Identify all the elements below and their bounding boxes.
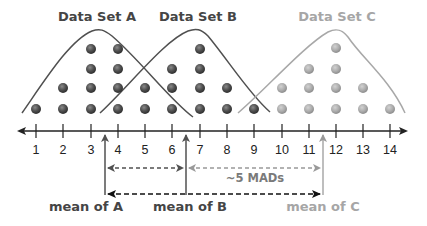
title-data-set-c: Data Set C — [298, 9, 376, 24]
tick-label: 5 — [142, 143, 149, 157]
tick-label: 10 — [275, 143, 289, 157]
mads-label: ~5 MADs — [226, 171, 285, 185]
curve-data-set-a — [22, 30, 193, 117]
tick-label: 6 — [169, 143, 176, 157]
number-line: 1 2 3 4 5 6 7 8 9 10 11 12 13 14 — [17, 124, 408, 157]
mean-a-label: mean of A — [49, 199, 123, 214]
tick-label: 14 — [383, 143, 397, 157]
title-data-set-b: Data Set B — [159, 9, 237, 24]
mean-c-label: mean of C — [286, 199, 360, 214]
tick-label: 11 — [303, 143, 316, 157]
tick-label: 1 — [33, 143, 40, 157]
mean-b-label: mean of B — [153, 199, 227, 214]
tick-label: 3 — [88, 143, 95, 157]
tick-label: 2 — [60, 143, 67, 157]
dot-plot-diagram: Data Set A Data Set B Data Set C — [0, 0, 427, 226]
tick-label: 9 — [251, 143, 258, 157]
curve-data-set-c — [238, 30, 405, 113]
title-data-set-a: Data Set A — [58, 9, 136, 24]
tick-label: 13 — [356, 143, 370, 157]
tick-label: 8 — [224, 143, 231, 157]
dots-light — [277, 43, 395, 114]
curve-data-set-b — [100, 29, 270, 113]
tick-label: 12 — [329, 143, 343, 157]
tick-label: 7 — [197, 143, 204, 157]
tick-label: 4 — [115, 143, 122, 157]
